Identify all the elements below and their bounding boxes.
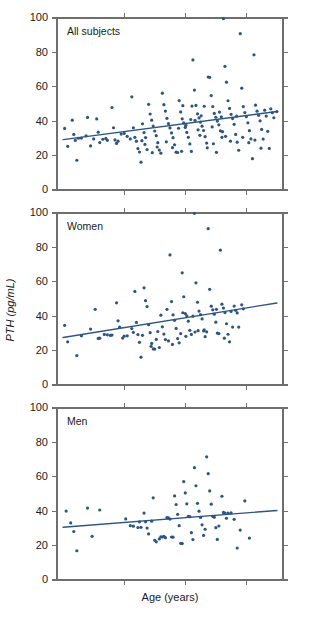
data-point: [126, 135, 129, 138]
data-point: [235, 115, 238, 118]
data-point: [194, 104, 197, 107]
data-point: [120, 133, 123, 136]
data-point: [262, 137, 265, 140]
data-point: [242, 105, 245, 108]
data-point: [129, 524, 132, 527]
data-point: [132, 126, 135, 129]
data-point: [89, 144, 92, 147]
data-point: [217, 524, 220, 527]
data-point: [252, 53, 255, 56]
data-point: [72, 133, 75, 136]
data-point: [212, 142, 215, 145]
data-point: [165, 140, 168, 143]
data-point: [229, 310, 232, 313]
data-point: [63, 127, 66, 130]
data-point: [215, 308, 218, 311]
plot-frame: [57, 408, 283, 580]
data-point: [190, 104, 193, 107]
data-point: [191, 538, 194, 541]
data-point: [269, 107, 272, 110]
data-point: [207, 472, 210, 475]
data-point: [193, 212, 196, 215]
data-point: [196, 502, 199, 505]
data-point: [225, 81, 228, 84]
data-point: [86, 116, 89, 119]
y-tick-label: 60: [36, 275, 48, 287]
data-point: [190, 333, 193, 336]
data-point: [185, 131, 188, 134]
data-point: [271, 111, 274, 114]
data-point: [139, 161, 142, 164]
data-point: [75, 549, 78, 552]
data-point: [92, 137, 95, 140]
data-point: [220, 115, 223, 118]
y-tick-label: 0: [42, 573, 48, 585]
data-point: [188, 329, 191, 332]
data-point: [202, 129, 205, 132]
y-tick-label: 80: [36, 46, 48, 58]
data-point: [263, 109, 266, 112]
data-point: [116, 319, 119, 322]
data-point: [133, 290, 136, 293]
data-point: [110, 106, 113, 109]
data-point: [138, 150, 141, 153]
data-point: [136, 333, 139, 336]
data-point: [226, 99, 229, 102]
data-point: [168, 518, 171, 521]
data-point: [176, 337, 179, 340]
data-point: [272, 116, 275, 119]
data-point: [200, 523, 203, 526]
panel-annotation: Women: [67, 220, 103, 232]
data-point: [150, 119, 153, 122]
data-point: [161, 325, 164, 328]
data-point: [180, 150, 183, 153]
data-point: [249, 137, 252, 140]
data-point: [177, 127, 180, 130]
data-point: [123, 335, 126, 338]
plot-frame: [57, 213, 283, 385]
data-point: [182, 295, 185, 298]
data-point: [197, 329, 200, 332]
y-tick-label: 80: [36, 241, 48, 253]
data-point: [219, 249, 222, 252]
y-tick-label: 0: [42, 378, 48, 390]
data-point: [247, 141, 250, 144]
data-point: [158, 149, 161, 152]
data-point: [190, 150, 193, 153]
data-point: [213, 112, 216, 115]
data-point: [204, 528, 207, 531]
data-point: [233, 123, 236, 126]
panel-annotation: Men: [67, 415, 88, 427]
data-point: [86, 507, 89, 510]
data-point: [165, 117, 168, 120]
data-point: [165, 308, 168, 311]
data-point: [97, 131, 100, 134]
data-point: [91, 535, 94, 538]
y-tick-label: 20: [36, 344, 48, 356]
data-point: [248, 129, 251, 132]
data-point: [130, 95, 133, 98]
data-point: [132, 331, 135, 334]
data-point: [206, 146, 209, 149]
y-tick-label: 20: [36, 539, 48, 551]
data-point: [200, 125, 203, 128]
data-point: [115, 301, 118, 304]
data-point: [187, 136, 190, 139]
data-point: [84, 134, 87, 137]
data-point: [266, 130, 269, 133]
data-point: [144, 299, 147, 302]
y-tick-label: 40: [36, 115, 48, 127]
data-point: [72, 530, 75, 533]
data-point: [171, 136, 174, 139]
panel-women: 020406080100Women: [30, 206, 288, 390]
data-point: [181, 117, 184, 120]
data-point: [217, 332, 220, 335]
data-point: [237, 325, 240, 328]
data-point: [223, 311, 226, 314]
y-tick-label: 20: [36, 149, 48, 161]
data-point: [214, 116, 217, 119]
data-point: [208, 489, 211, 492]
data-point: [155, 338, 158, 341]
y-tick-label: 100: [30, 11, 48, 23]
data-point: [193, 88, 196, 91]
